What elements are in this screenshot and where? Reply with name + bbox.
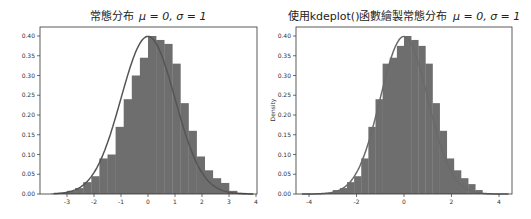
y-tick-label: 0.05 — [278, 170, 292, 177]
y-tick-label: 0.15 — [22, 131, 36, 138]
y-tick-label: 0.35 — [278, 52, 292, 59]
x-tick-label: -1 — [118, 198, 124, 205]
x-tick-label: 4 — [497, 198, 501, 205]
y-tick-label: 0.15 — [278, 131, 292, 138]
left-subplot: 常態分布 μ = 0, σ = 1 -3-2-101234 0.000.050.… — [22, 9, 258, 205]
y-tick-label: 0.10 — [22, 151, 36, 158]
y-tick-label: 0.30 — [22, 72, 36, 79]
histogram-bar — [404, 36, 411, 194]
histogram-bar — [433, 103, 440, 194]
x-tick-label: 0 — [402, 198, 406, 205]
y-tick-label: 0.00 — [278, 190, 292, 197]
histogram-bar — [361, 158, 368, 194]
histogram-bar — [156, 40, 164, 194]
x-tick-label: 4 — [254, 198, 258, 205]
right-y-axis: 0.000.050.100.150.200.250.300.350.40 — [278, 32, 296, 197]
histogram-bar — [99, 158, 107, 194]
y-tick-label: 0.05 — [22, 170, 36, 177]
right-chart-title: 使用kdeplot()函數繪製常態分布 μ = 0, σ = 1 — [288, 9, 521, 23]
histogram-bar — [148, 36, 156, 194]
histogram-bar — [116, 127, 124, 194]
right-y-axis-label: Density — [269, 98, 277, 121]
right-histogram-bars — [326, 36, 483, 194]
x-tick-label: 3 — [227, 198, 231, 205]
x-tick-label: 2 — [200, 198, 204, 205]
x-tick-label: 0 — [146, 198, 150, 205]
left-histogram-bars — [51, 36, 246, 194]
x-tick-label: -4 — [306, 198, 312, 205]
histogram-bar — [411, 40, 418, 194]
histogram-bar — [397, 46, 404, 194]
left-x-axis: -3-2-101234 — [64, 194, 258, 205]
x-tick-label: -3 — [64, 198, 70, 205]
y-tick-label: 0.00 — [22, 190, 36, 197]
y-tick-label: 0.20 — [278, 111, 292, 118]
histogram-bar — [132, 76, 140, 195]
right-subplot: 使用kdeplot()函數繪製常態分布 μ = 0, σ = 1 -4-2024… — [269, 9, 520, 205]
right-x-axis: -4-2024 — [306, 194, 501, 205]
x-tick-label: -2 — [354, 198, 360, 205]
histogram-bar — [425, 64, 432, 194]
histogram-bar — [354, 176, 361, 194]
left-y-axis: 0.000.050.100.150.200.250.300.350.40 — [22, 32, 40, 197]
y-tick-label: 0.40 — [22, 32, 36, 39]
y-tick-label: 0.35 — [22, 52, 36, 59]
histogram-bar — [172, 64, 180, 194]
figure-canvas: 常態分布 μ = 0, σ = 1 -3-2-101234 0.000.050.… — [0, 0, 531, 219]
y-tick-label: 0.20 — [22, 111, 36, 118]
y-tick-label: 0.10 — [278, 151, 292, 158]
histogram-bar — [140, 58, 148, 194]
y-tick-label: 0.25 — [22, 91, 36, 98]
left-chart-title: 常態分布 μ = 0, σ = 1 — [90, 9, 207, 23]
histogram-bar — [124, 99, 132, 194]
histogram-bar — [180, 103, 188, 194]
histogram-bar — [91, 176, 99, 194]
y-tick-label: 0.40 — [278, 32, 292, 39]
histogram-bar — [390, 58, 397, 194]
histogram-bar — [108, 155, 116, 195]
x-tick-label: 2 — [450, 198, 454, 205]
y-tick-label: 0.25 — [278, 91, 292, 98]
y-tick-label: 0.30 — [278, 72, 292, 79]
x-tick-label: -2 — [91, 198, 97, 205]
x-tick-label: 1 — [173, 198, 177, 205]
